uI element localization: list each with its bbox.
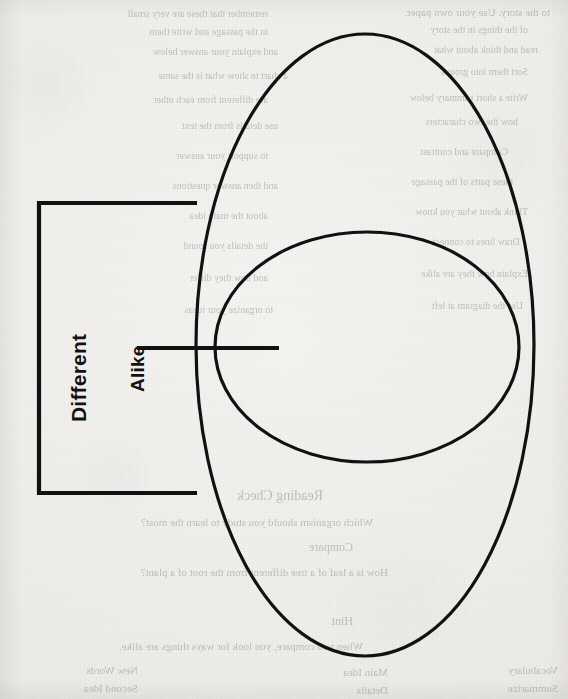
outer-ellipse — [196, 34, 534, 656]
worksheet-page: to the story. Use your own paper.remembe… — [0, 0, 568, 699]
venn-circles-group — [196, 34, 534, 656]
label-different: Different — [67, 334, 91, 422]
label-alike: Alike — [127, 346, 149, 392]
